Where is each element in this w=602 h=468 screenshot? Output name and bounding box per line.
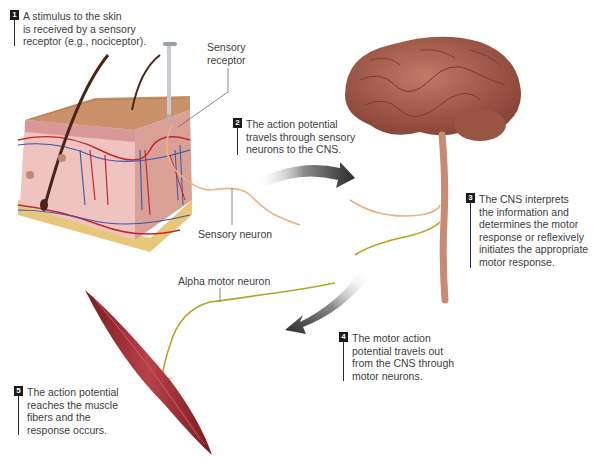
spinal-cord	[442, 135, 445, 300]
step-bar	[470, 202, 471, 268]
step-text: The CNS interprets the information and d…	[479, 193, 588, 268]
step-bar	[237, 127, 238, 155]
label-sensory-receptor: Sensory receptor	[207, 41, 246, 66]
brain	[345, 37, 521, 141]
skin-block	[18, 55, 192, 252]
arrow-from-cns	[285, 272, 368, 334]
label-alpha-motor-neuron: Alpha motor neuron	[178, 275, 270, 288]
step-text: The action potential travels through sen…	[246, 118, 355, 156]
step-bar	[14, 19, 15, 46]
step-text: A stimulus to the skin is received by a …	[23, 10, 146, 48]
step-bar	[18, 395, 19, 435]
step-text: The action potential reaches the muscle …	[27, 386, 119, 436]
arrow-to-cns	[255, 162, 355, 188]
step-bar	[343, 341, 344, 381]
step-text: The motor action potential travels out f…	[352, 332, 454, 382]
label-sensory-neuron: Sensory neuron	[198, 228, 272, 241]
